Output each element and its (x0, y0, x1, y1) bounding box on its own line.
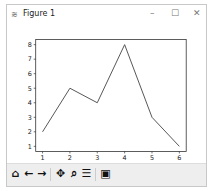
x-tick-label: 6 (177, 154, 181, 162)
axes-frame (36, 40, 186, 152)
y-tick-label: 8 (28, 41, 32, 49)
title-bar[interactable]: ≋ Figure 1 – ☐ ✕ (7, 5, 206, 27)
x-tick-label: 5 (150, 154, 154, 162)
y-tick-label: 4 (28, 99, 32, 107)
toolbar-separator (95, 168, 96, 181)
home-icon[interactable]: ⌂ (9, 167, 22, 181)
toolbar-separator (50, 168, 51, 181)
maximize-button[interactable]: ☐ (171, 8, 179, 18)
zoom-icon[interactable]: ⌕ (67, 167, 80, 181)
x-tick-label: 1 (41, 154, 45, 162)
configure-subplots-icon[interactable]: ☰ (80, 167, 93, 181)
save-icon[interactable]: ▣ (99, 167, 112, 181)
navigation-toolbar: ⌂ ← → ✥ ⌕ ☰ ▣ (7, 163, 206, 186)
line-chart[interactable]: 12345612345678 (7, 27, 206, 163)
figure-window: ≋ Figure 1 – ☐ ✕ 12345612345678 ⌂ ← → ✥ … (6, 4, 207, 187)
y-tick-label: 7 (28, 55, 32, 63)
close-button[interactable]: ✕ (193, 8, 201, 18)
matplotlib-icon: ≋ (11, 10, 20, 19)
window-title: Figure 1 (23, 9, 55, 18)
y-tick-label: 6 (28, 70, 32, 78)
forward-icon[interactable]: → (35, 167, 48, 181)
pan-icon[interactable]: ✥ (54, 167, 67, 181)
x-tick-label: 4 (123, 154, 127, 162)
y-tick-label: 3 (28, 114, 32, 122)
y-tick-label: 1 (28, 143, 32, 151)
minimize-button[interactable]: – (150, 8, 155, 18)
y-tick-label: 5 (28, 85, 32, 93)
y-tick-label: 2 (28, 128, 32, 136)
back-icon[interactable]: ← (22, 167, 35, 181)
x-tick-label: 2 (68, 154, 72, 162)
x-tick-label: 3 (95, 154, 99, 162)
